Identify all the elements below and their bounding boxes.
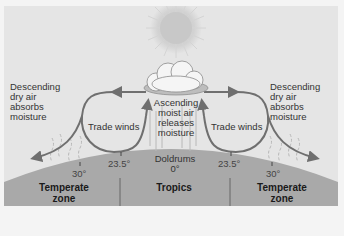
label-line: moisture [142,128,210,138]
diagram-panel: Descending dry air absorbs moisture Desc… [4,6,338,206]
doldrums-label: Doldrums 0° [146,154,204,174]
latitude-right-30: 30° [266,168,280,179]
label-line: moisture [270,112,320,122]
zone-temperate-right: Temperate zone [232,182,332,204]
latitude-right-23-5: 23.5° [218,158,240,169]
zone-line: zone [14,193,114,204]
right-descending-label: Descending dry air absorbs moisture [270,82,320,122]
doldrums-latitude: 0° [146,164,204,174]
latitude-left-30: 30° [72,168,86,179]
cloud-icon [144,61,208,95]
zone-line: Temperate [14,182,114,193]
zone-temperate-left: Temperate zone [14,182,114,204]
zone-tropics: Tropics [124,182,224,193]
zone-line: zone [232,193,332,204]
label-line: moisture [10,112,60,122]
latitude-left-23-5: 23.5° [108,158,130,169]
left-descending-label: Descending dry air absorbs moisture [10,82,60,122]
sun-icon [146,6,206,58]
right-trade-winds-label: Trade winds [211,122,262,132]
zone-line: Temperate [232,182,332,193]
left-trade-winds-label: Trade winds [88,122,139,132]
center-ascending-label: Ascending moist air releases moisture [142,98,210,138]
zone-line: Tropics [124,182,224,193]
